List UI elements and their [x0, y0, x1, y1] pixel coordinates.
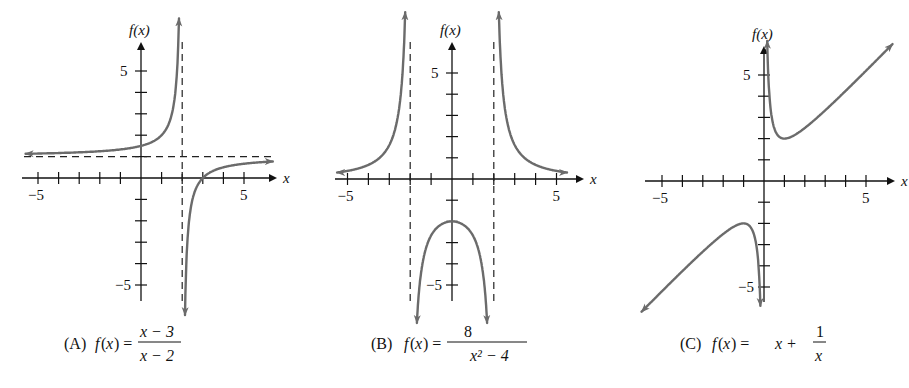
svg-text:5: 5: [862, 190, 870, 206]
function-curve: [185, 162, 273, 316]
caption-c: (C) f ( x ) = x + 1 x: [680, 323, 826, 364]
numerator-b: 8: [464, 323, 472, 340]
svg-text:−5: −5: [738, 279, 754, 295]
svg-text:x: x: [414, 335, 422, 352]
function-curve: [26, 19, 179, 154]
y-axis-label: f(x): [129, 22, 150, 39]
caption-a: (A) f ( x ) = x − 3 x − 2: [64, 323, 181, 364]
svg-text:5: 5: [120, 63, 128, 79]
caption-b: (B) f ( x ) = 8 x² − 4: [371, 323, 527, 364]
function-curve: [337, 12, 405, 172]
numerator-c: 1: [816, 323, 824, 340]
svg-text:5: 5: [431, 65, 439, 81]
svg-text:(B): (B): [371, 335, 392, 353]
svg-text:) =: ) =: [731, 335, 749, 353]
numerator-a: x − 3: [139, 323, 174, 340]
svg-text:−5: −5: [28, 187, 44, 203]
svg-text:) =: ) =: [114, 335, 132, 353]
svg-text:−5: −5: [338, 188, 354, 204]
svg-text:x +: x +: [774, 335, 797, 352]
x-axis-label: x: [282, 170, 290, 186]
figure: xf(x)−555−5xf(x)−555−5xf(x)−555−5 (A) f …: [0, 0, 909, 388]
x-axis-label: x: [589, 171, 597, 187]
function-curve: [767, 41, 892, 139]
svg-text:x: x: [105, 335, 113, 352]
svg-text:(C): (C): [680, 335, 701, 353]
svg-text:−5: −5: [652, 190, 668, 206]
svg-text:5: 5: [240, 187, 248, 203]
svg-text:(A): (A): [64, 335, 86, 353]
svg-text:5: 5: [553, 188, 561, 204]
denominator-b: x² − 4: [469, 347, 509, 364]
svg-text:−5: −5: [115, 277, 131, 293]
svg-text:x: x: [722, 335, 730, 352]
svg-text:5: 5: [743, 67, 751, 83]
y-axis-label: f(x): [752, 26, 773, 43]
denominator-a: x − 2: [139, 347, 174, 364]
y-axis-label: f(x): [440, 22, 461, 39]
denominator-c: x: [814, 347, 822, 364]
function-curve: [642, 223, 761, 311]
graph-c: xf(x)−555−5: [642, 26, 908, 312]
svg-text:) =: ) =: [423, 335, 441, 353]
graph-a: xf(x)−555−5: [22, 19, 290, 316]
graph-b: xf(x)−555−5: [335, 12, 597, 323]
x-axis-label: x: [900, 173, 908, 189]
svg-text:−5: −5: [426, 277, 442, 293]
function-curve: [499, 12, 567, 172]
